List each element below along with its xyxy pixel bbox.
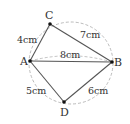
label-b: B: [114, 56, 122, 69]
length-cb: 7cm: [80, 29, 100, 40]
segment-ab: [30, 61, 112, 62]
length-ac: 4cm: [17, 34, 37, 45]
segment-db: [64, 62, 112, 102]
label-c: C: [45, 9, 53, 22]
label-a: A: [19, 55, 29, 68]
point-d: [62, 100, 66, 104]
point-c: [48, 22, 52, 26]
quadrilateral-diagram: A B C D 4cm 7cm 8cm 5cm 6cm: [0, 0, 130, 124]
label-d: D: [60, 106, 69, 119]
length-db: 6cm: [88, 85, 108, 96]
length-ab: 8cm: [60, 49, 80, 60]
point-a: [28, 59, 32, 63]
length-ad: 5cm: [26, 85, 46, 96]
